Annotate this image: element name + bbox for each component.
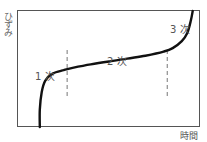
stage-label-secondary: 2 次: [107, 53, 127, 68]
x-axis-label: 時間: [180, 129, 198, 142]
stage-label-tertiary: 3 次: [170, 21, 190, 36]
stage-label-primary: 1 次: [35, 68, 55, 83]
y-axis-label: ひずみ: [2, 12, 15, 36]
